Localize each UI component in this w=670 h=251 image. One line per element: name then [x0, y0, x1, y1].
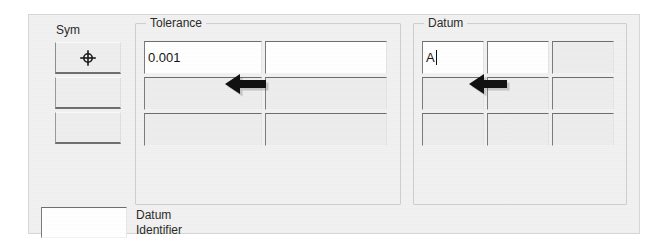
tolerance-row-3	[144, 113, 387, 146]
sym-column-label: Sym	[41, 23, 127, 37]
tolerance-group: Tolerance 0.001	[135, 23, 401, 205]
tolerance-row-1: 0.001	[144, 41, 387, 74]
datum-field-r1c3[interactable]	[552, 41, 614, 74]
datum-identifier-input[interactable]	[41, 207, 127, 238]
datum-field-r1c1-value: A	[426, 50, 435, 65]
tolerance-field-r3c1[interactable]	[144, 113, 262, 146]
datum-field-r2c3[interactable]	[552, 77, 614, 110]
datum-field-r2c1[interactable]	[422, 77, 484, 110]
position-symbol-icon	[79, 49, 97, 67]
datum-field-r3c3[interactable]	[552, 113, 614, 146]
tolerance-grid: 0.001	[144, 41, 387, 146]
sym-button-2[interactable]	[55, 77, 121, 109]
datum-identifier-row: Datum Identifier	[41, 207, 182, 238]
datum-row-1: A	[422, 41, 614, 74]
tolerance-group-label: Tolerance	[146, 16, 206, 30]
datum-grid: A	[422, 41, 614, 146]
datum-group: Datum A	[413, 23, 627, 205]
datum-field-r3c2[interactable]	[487, 113, 549, 146]
sym-button-3[interactable]	[55, 112, 121, 144]
tolerance-field-r1c2[interactable]	[265, 41, 387, 74]
gdt-feature-control-panel: Sym Tolerance 0.001	[28, 14, 640, 234]
sym-button-1[interactable]	[55, 42, 121, 74]
tolerance-field-r3c2[interactable]	[265, 113, 387, 146]
datum-row-2	[422, 77, 614, 110]
tolerance-row-2	[144, 77, 387, 110]
sym-column: Sym	[41, 23, 127, 147]
tolerance-field-r2c2[interactable]	[265, 77, 387, 110]
datum-row-3	[422, 113, 614, 146]
datum-field-r1c2[interactable]	[487, 41, 549, 74]
datum-group-label: Datum	[424, 16, 467, 30]
text-caret	[436, 50, 437, 65]
datum-field-r3c1[interactable]	[422, 113, 484, 146]
datum-identifier-label: Datum Identifier	[136, 207, 182, 238]
tolerance-field-r1c1[interactable]: 0.001	[144, 41, 262, 74]
tolerance-field-r1c1-value: 0.001	[148, 50, 181, 65]
tolerance-field-r2c1[interactable]	[144, 77, 262, 110]
datum-field-r2c2[interactable]	[487, 77, 549, 110]
datum-field-r1c1[interactable]: A	[422, 41, 484, 74]
